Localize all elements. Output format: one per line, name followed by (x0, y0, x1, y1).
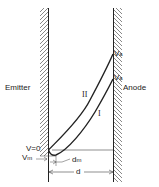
curve-I-label: I (98, 110, 101, 118)
d-label: d (76, 168, 80, 176)
va-top-label: Va (114, 50, 123, 58)
emitter-label: Emitter (5, 84, 30, 92)
vm-label: Vm (22, 154, 32, 162)
d-dimension (49, 170, 113, 174)
curve-II (49, 54, 114, 150)
va-mid-label: Va (114, 74, 123, 82)
dm-dimension (50, 156, 70, 166)
curve-II-label: II (82, 91, 87, 99)
anode-wall (114, 8, 123, 182)
curve-I (49, 79, 114, 155)
dm-label: dm (72, 156, 81, 164)
zero-voltage-label: V=0 (26, 145, 40, 153)
anode-label: Anode (123, 84, 146, 92)
